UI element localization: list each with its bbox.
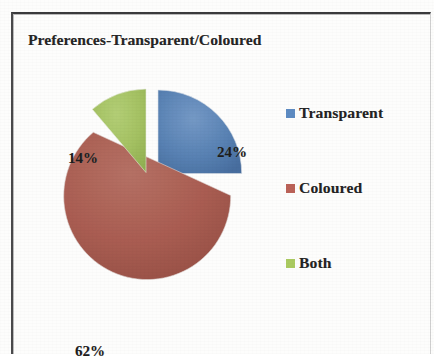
legend-swatch-coloured-icon xyxy=(286,184,295,193)
legend-item-both[interactable]: Both xyxy=(286,250,426,276)
chart-title: Preferences-Transparent/Coloured xyxy=(28,31,261,49)
legend-label-transparent: Transparent xyxy=(299,104,383,122)
pie-label-transparent: 24% xyxy=(217,144,247,161)
chart-legend: Transparent Coloured Both xyxy=(286,100,426,325)
legend-item-transparent[interactable]: Transparent xyxy=(286,100,426,126)
legend-swatch-both-icon xyxy=(286,259,295,268)
pie-label-both: 14% xyxy=(68,150,98,167)
pie-plot-area: 24% 62% 14% xyxy=(20,62,280,327)
legend-swatch-transparent-icon xyxy=(286,109,295,118)
legend-item-coloured[interactable]: Coloured xyxy=(286,175,426,201)
legend-label-coloured: Coloured xyxy=(299,179,362,197)
pie-chart-svg xyxy=(20,62,280,327)
legend-label-both: Both xyxy=(299,254,332,272)
pie-label-coloured: 62% xyxy=(75,343,105,360)
